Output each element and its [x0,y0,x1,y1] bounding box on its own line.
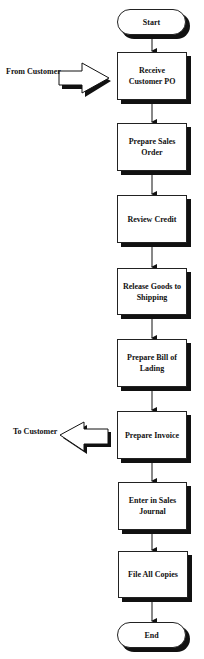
start-label: Start [143,17,160,28]
process-label: Review Credit [128,214,177,225]
process-label: File All Copies [128,569,178,580]
end-terminal: End [117,622,186,648]
process-label: Prepare Sales Order [122,136,182,158]
process-release-goods-to-shipping: Release Goods to Shipping [117,268,187,315]
process-file-all-copies: File All Copies [118,551,188,598]
flowchart: Start Receive Customer PO Prepare Sales … [0,0,204,659]
process-label: Release Goods to Shipping [122,281,182,303]
process-prepare-sales-order: Prepare Sales Order [117,123,187,171]
process-receive-customer-po: Receive Customer PO [117,52,187,100]
to-customer-label: To Customer [13,427,57,437]
outbound-block-arrow-icon [60,422,111,454]
process-review-credit: Review Credit [117,195,187,243]
inbound-block-arrow-icon [59,63,111,97]
start-terminal: Start [117,9,186,35]
process-label: Prepare Invoice [125,430,179,441]
process-label: Receive Customer PO [122,65,182,87]
process-label: Prepare Bill of Lading [122,352,182,374]
process-prepare-bill-of-lading: Prepare Bill of Lading [117,339,187,387]
from-customer-label: From Customer [6,67,61,77]
process-prepare-invoice: Prepare Invoice [117,411,187,459]
end-label: End [144,630,158,641]
process-label: Enter in Sales Journal [123,495,182,517]
process-enter-in-sales-journal: Enter in Sales Journal [118,482,187,530]
